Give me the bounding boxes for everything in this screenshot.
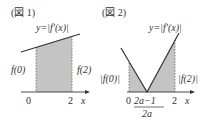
figure-1-shaded-area: [36, 36, 72, 92]
figure-1-right-label: f(2): [77, 64, 92, 76]
figure-1-tick-2: 2: [68, 95, 73, 106]
figure-2-denominator: 2a: [142, 108, 152, 119]
figure-1-left-label: f(0): [11, 64, 26, 76]
figure-2-tick-mid: 2a−1: [134, 95, 156, 106]
figure-2-left-label: |f(0)|: [100, 73, 120, 85]
figure-1-axis-arrow-icon: [85, 90, 90, 94]
figure-2-x-label: x: [184, 95, 190, 106]
figure-2-tick-2: 2: [172, 95, 177, 106]
figure-1-curve-label: y=|f′(x)|: [35, 22, 69, 34]
figure-2-axis-arrow-icon: [190, 90, 195, 94]
figure-2-curve-label: y=|f′(x)|: [148, 22, 182, 34]
figure-2: (図 2) y=|f′(x)| |f(0)| |f(2)| 0 2a−1 2a …: [100, 7, 198, 119]
figure-1-title: (図 1): [11, 7, 35, 19]
figure-2-title: (図 2): [102, 7, 126, 19]
figure-2-tick-0: 0: [126, 95, 131, 106]
figure-1-tick-0: 0: [26, 95, 31, 106]
figure-2-right-label: |f(2)|: [178, 73, 198, 85]
figure-1-x-label: x: [80, 95, 86, 106]
figure-canvas: (図 1) y=|f′(x)| f(0) f(2) 0 2 x (図 2) y=…: [0, 0, 213, 121]
figure-1: (図 1) y=|f′(x)| f(0) f(2) 0 2 x: [11, 7, 92, 106]
